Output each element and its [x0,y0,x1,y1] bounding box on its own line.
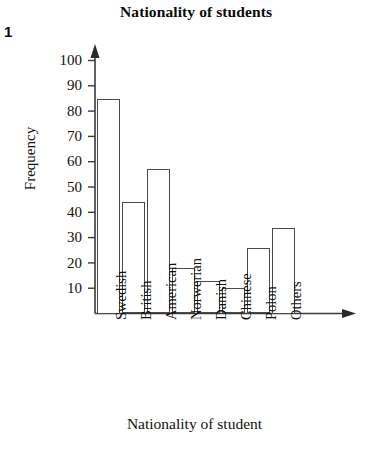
x-category-label: British [139,281,154,320]
y-axis-ticks [88,61,95,289]
y-axis-arrowhead [91,44,100,58]
worksheet-page: 1 Nationality of students [0,0,389,450]
x-axis-title: Nationality of student [0,415,389,433]
x-category-label: Chinese [239,273,254,320]
y-tick-label: 100 [43,53,82,68]
x-category-label: Swedish [114,271,129,320]
y-tick-label: 50 [48,180,82,195]
y-tick-label: 40 [48,205,82,220]
y-tick-label: 90 [48,78,82,93]
y-tick-label: 80 [48,104,82,119]
x-category-label: Danish [214,279,229,320]
y-tick-label: 30 [48,230,82,245]
x-category-label: American [164,263,179,320]
y-tick-label: 10 [48,281,82,296]
x-category-label: Others [289,281,304,320]
x-axis-arrowhead [342,309,356,318]
bar-chart: 10 20 30 40 50 60 70 80 90 100 Frequency… [0,0,389,450]
x-category-label: Polon [264,286,279,320]
y-axis-title: Frequency [22,104,39,214]
x-category-label: Norwerian [189,258,204,320]
y-tick-label: 20 [48,256,82,271]
y-tick-label: 70 [48,129,82,144]
y-tick-label: 60 [48,154,82,169]
